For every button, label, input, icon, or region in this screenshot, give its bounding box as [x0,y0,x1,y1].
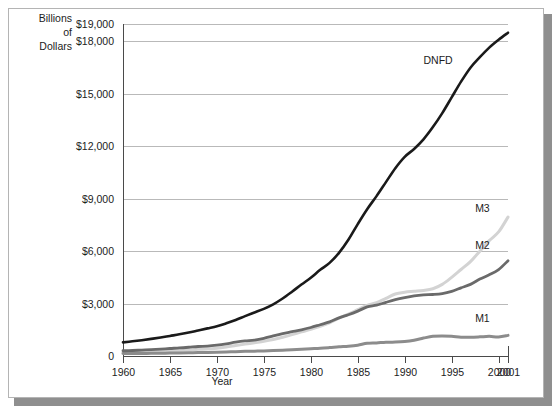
data-series-group [123,33,508,354]
y-tick-label: $3,000 [82,298,114,310]
y-tick-label: $6,000 [82,245,114,257]
y-tick-label: $12,000 [76,140,114,152]
y-axis-caption-line-3: Dollars [39,40,72,52]
y-axis-tick-labels: 0$3,000$6,000$9,000$12,000$15,000$18,000… [76,18,114,362]
data-line-m3 [123,217,508,352]
x-axis-tick-labels: 1960196519701975198019851990199520002001 [112,366,521,378]
x-axis-title: Year [211,375,233,387]
series-label-m2: M2 [475,239,490,251]
series-label-dnfd: DNFD [423,54,453,66]
data-line-dnfd [123,33,508,343]
x-tick-label: 1975 [253,366,277,378]
y-tick-label: $19,000 [76,18,114,30]
x-tick-label: 2001 [497,366,521,378]
y-tick-label: $18,000 [76,35,114,47]
x-tick-label: 1985 [347,366,371,378]
y-tick-label: $9,000 [82,193,114,205]
y-axis-caption-line-2: of [63,26,72,38]
y-tick-label: $15,000 [76,88,114,100]
y-tick-label: 0 [108,350,114,362]
y-axis-caption-line-1: Billions [39,12,72,24]
x-tick-label: 1995 [441,366,465,378]
gridlines-group [123,25,508,305]
axis-lines-group [123,24,509,363]
x-tick-label: 1960 [112,366,136,378]
line-chart-canvas: 0$3,000$6,000$9,000$12,000$15,000$18,000… [0,0,558,414]
chart-figure: 0$3,000$6,000$9,000$12,000$15,000$18,000… [0,0,558,414]
x-tick-label: 1965 [159,366,183,378]
series-label-m1: M1 [475,312,490,324]
x-tick-label: 1990 [394,366,418,378]
series-label-m3: M3 [475,202,490,214]
x-tick-label: 1980 [300,366,324,378]
